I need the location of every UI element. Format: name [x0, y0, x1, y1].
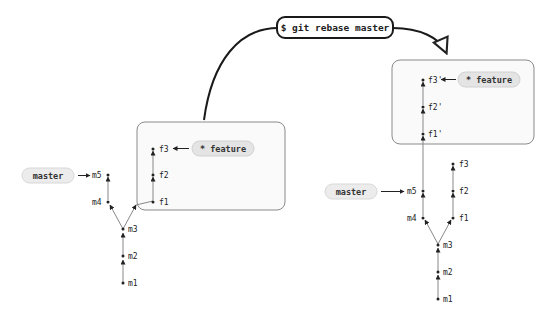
commit-f3: f3 [459, 160, 469, 169]
svg-text:master: master [336, 187, 367, 197]
commit-m4: m4 [92, 198, 102, 207]
commit-m1: m1 [128, 279, 138, 288]
commit-m2: m2 [443, 268, 453, 277]
commit-m3: m3 [128, 225, 138, 234]
svg-text:master: master [33, 171, 64, 181]
before-graph: m1 m2 m3 m4 m5 f1 f2 f3 master * feature [22, 122, 285, 288]
commit-f1-prime: f1' [428, 130, 442, 139]
commit-f3-prime: f3' [428, 76, 442, 85]
rebase-diagram: $ git rebase master m1 m2 m3 m4 m5 f1 f2… [0, 0, 557, 316]
commit-m4: m4 [407, 214, 417, 223]
commit-m1: m1 [443, 295, 453, 304]
commit-m3: m3 [443, 241, 453, 250]
commit-m5: m5 [92, 171, 102, 180]
svg-text:* feature: * feature [200, 144, 246, 154]
commit-f2: f2 [159, 171, 169, 180]
after-master-branch: master [325, 184, 404, 199]
commit-f1: f1 [159, 198, 169, 207]
command-pill: $ git rebase master [277, 17, 393, 38]
before-master-branch: master [22, 168, 90, 183]
commit-f2-prime: f2' [428, 103, 442, 112]
commit-f2: f2 [459, 187, 469, 196]
commit-m2: m2 [128, 252, 138, 261]
commit-m5: m5 [407, 187, 417, 196]
command-label: $ git rebase master [281, 22, 390, 33]
before-feature-box [137, 122, 285, 210]
svg-text:* feature: * feature [466, 75, 512, 85]
commit-f3: f3 [159, 145, 169, 154]
commit-f1: f1 [459, 214, 469, 223]
after-graph: m1 m2 m3 m4 m5 f1 f2 f3 f1' f2' f3' mast… [325, 60, 534, 304]
